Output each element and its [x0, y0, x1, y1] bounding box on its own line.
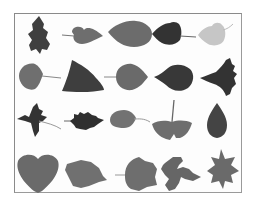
- leaf-r2c4: [154, 63, 196, 93]
- leaf-r4c5: [207, 149, 239, 189]
- leaf-r4c4: [161, 155, 203, 193]
- leaf-r3c2: [64, 110, 106, 132]
- leaf-r1c4: [152, 21, 196, 47]
- leaf-r1c1: [26, 16, 52, 54]
- leaf-r3c1: [17, 103, 61, 139]
- leaf-r3c4: [152, 100, 192, 142]
- leaf-r1c3: [108, 20, 152, 48]
- leaf-r2c2: [62, 60, 106, 94]
- leaf-r2c1: [17, 60, 61, 92]
- leaf-r2c5: [200, 58, 240, 98]
- leaf-r2c3: [104, 62, 148, 92]
- leaf-r4c1: [16, 153, 60, 193]
- leaf-r4c3: [115, 155, 159, 193]
- leaf-r3c3: [110, 110, 150, 130]
- leaf-r3c5: [205, 103, 229, 139]
- leaf-r1c2: [62, 24, 104, 46]
- leaf-r4c2: [65, 160, 107, 190]
- leaf-r1c5: [196, 21, 236, 47]
